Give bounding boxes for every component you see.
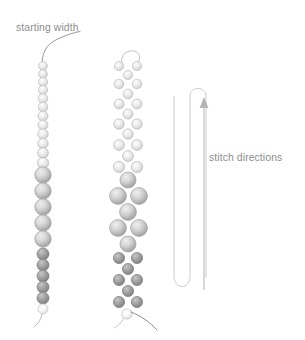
bead (120, 204, 137, 221)
bead (37, 259, 49, 271)
starting-width-leader-thread (42, 32, 80, 67)
bead (114, 119, 124, 129)
stitch-direction-arrow (200, 97, 209, 290)
bead (123, 129, 133, 139)
bead-end (122, 309, 132, 319)
bead (122, 263, 133, 274)
bead (38, 148, 49, 159)
bead (131, 252, 142, 263)
diagram-canvas: starting width stitch directions (0, 0, 305, 340)
bead (114, 140, 125, 151)
bead (131, 274, 142, 285)
bead (123, 89, 133, 99)
bead (38, 111, 48, 121)
starting-width-label: starting width (16, 22, 79, 33)
bead (110, 220, 127, 237)
bead (114, 99, 124, 109)
bead (122, 285, 133, 296)
bead (35, 183, 51, 199)
thread-tail-light (114, 318, 124, 328)
stitch-directions-label: stitch directions (209, 152, 282, 163)
single-strand-column (34, 62, 51, 327)
bead (113, 161, 124, 172)
bead (131, 188, 148, 205)
thread-tail (34, 314, 42, 327)
bead (35, 199, 51, 215)
bead (114, 61, 123, 70)
bead (120, 236, 136, 252)
bead (113, 252, 124, 263)
bead (35, 231, 51, 247)
bead (131, 220, 148, 237)
bead (35, 215, 51, 231)
bead (123, 70, 132, 79)
peyote-strand-column (110, 61, 157, 330)
bead (132, 119, 142, 129)
bead-end (38, 304, 48, 314)
bead (37, 270, 49, 282)
bead (123, 109, 133, 119)
bead (123, 151, 134, 162)
bead (39, 62, 48, 71)
bead (38, 129, 48, 139)
bead (37, 281, 49, 293)
bead (38, 85, 47, 94)
bead (114, 79, 124, 89)
bead (37, 248, 49, 260)
bead (132, 140, 143, 151)
bead (120, 172, 136, 188)
thread-tail-dark (131, 312, 157, 330)
bead (37, 292, 49, 304)
bead (38, 102, 48, 112)
bead (131, 161, 142, 172)
bead (113, 274, 124, 285)
bead (113, 296, 124, 307)
bead (131, 296, 142, 307)
bead (35, 167, 51, 183)
bead (38, 138, 48, 148)
bead (132, 61, 141, 70)
bead (132, 99, 142, 109)
bead (132, 79, 142, 89)
bead (110, 188, 127, 205)
diagram-svg (0, 0, 305, 340)
serpentine-stitch-path (174, 89, 222, 289)
